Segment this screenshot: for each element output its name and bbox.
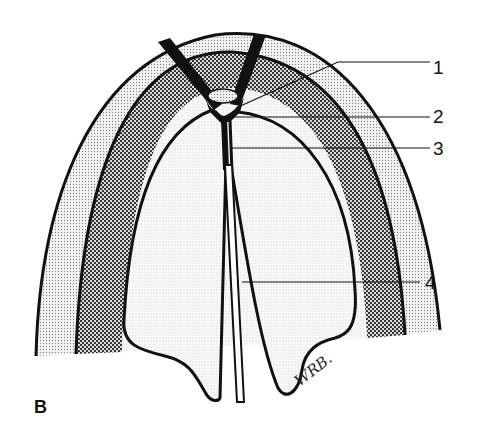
label-3: 3: [433, 139, 444, 158]
label-2: 2: [433, 107, 444, 126]
small-gland: [208, 89, 238, 103]
panel-letter: B: [34, 397, 47, 418]
label-1: 1: [433, 58, 444, 77]
label-4: 4: [425, 273, 436, 292]
anatomical-diagram: [0, 0, 477, 442]
